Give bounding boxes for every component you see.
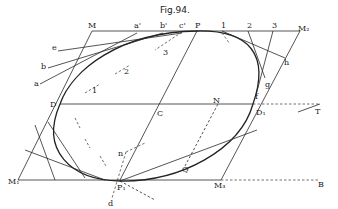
tangent-lines-lower-right — [120, 104, 257, 200]
label-N: N — [213, 96, 220, 105]
label-g: g — [265, 80, 270, 89]
figure-title: Fig.94. — [160, 5, 190, 15]
label-Q: Q — [182, 165, 189, 174]
label-d: d — [108, 199, 113, 208]
label-M: M — [88, 21, 96, 30]
label-b: b — [41, 62, 46, 71]
label-P1: P₁ — [117, 183, 126, 192]
label-c-prime: c' — [179, 21, 186, 30]
label-e: e — [52, 43, 57, 52]
label-D: D — [50, 100, 56, 109]
parallelogram-frame — [18, 31, 300, 180]
label-B: B — [318, 180, 324, 189]
label-a-prime: a' — [134, 21, 141, 30]
tangent-lines-upper-right — [222, 31, 285, 95]
label-1: 1 — [221, 21, 226, 30]
label-P: P — [195, 21, 201, 30]
label-inner-3: 3 — [163, 48, 168, 57]
label-2: 2 — [247, 21, 252, 30]
ellipse-construction-diagram: Fig.94. — [0, 0, 338, 209]
label-inner-1: 1 — [92, 86, 97, 95]
label-M1: M₁ — [8, 177, 19, 186]
tangent-lines-lower-left — [25, 122, 105, 180]
label-C: C — [157, 109, 163, 118]
label-h: h — [284, 58, 289, 67]
label-f: f — [255, 92, 259, 101]
label-3: 3 — [272, 21, 277, 30]
label-a: a — [34, 79, 39, 88]
label-inner-2: 2 — [124, 67, 129, 76]
label-b-prime: b' — [160, 21, 167, 30]
label-n: n — [118, 149, 123, 158]
label-D1: D₁ — [256, 108, 266, 117]
ellipse-curve — [54, 31, 259, 181]
label-T: T — [315, 107, 321, 116]
label-M3: M₃ — [214, 181, 225, 190]
tangent-lines-upper-left — [40, 32, 182, 84]
label-M2: M₂ — [298, 24, 309, 33]
conjugate-diameters — [60, 31, 253, 180]
